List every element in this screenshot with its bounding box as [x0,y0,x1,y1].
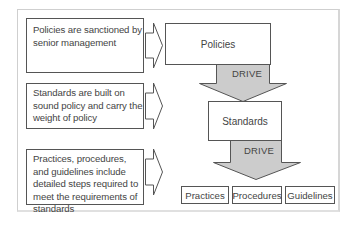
drive-label: DRIVE [232,68,262,79]
standards-label: Standards [222,116,268,127]
right-arrow-icon [146,149,163,195]
procedures-box: Procedures [232,186,282,204]
right-arrow-icon [146,83,163,129]
right-arrow-icon [146,23,163,68]
guidelines-label: Guidelines [287,190,332,201]
guidelines-box: Guidelines [285,186,335,204]
policies-box: Policies [165,23,271,65]
practices-box: Practices [181,186,229,204]
practices-label: Practices [185,190,224,201]
procedures-label: Procedures [232,190,281,201]
standards-box: Standards [208,101,282,141]
drive-label: DRIVE [244,145,274,156]
policies-label: Policies [201,39,235,50]
